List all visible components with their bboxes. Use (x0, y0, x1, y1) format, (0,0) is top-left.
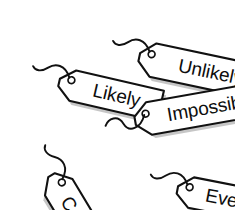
tag-evens: Evens (130, 160, 235, 210)
tag-scene: UnlikelyLikelyImpossibleCertainEvens (0, 0, 235, 210)
tag-string-icon (32, 60, 71, 78)
tag-label: Evens (204, 184, 235, 210)
tag-string-icon (150, 168, 189, 184)
